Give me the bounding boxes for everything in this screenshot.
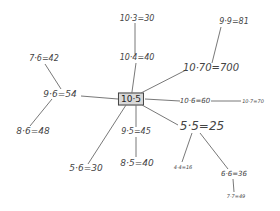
mind-map-node: 10·7=70: [242, 99, 264, 104]
connector-line: [233, 179, 234, 192]
connector-line: [142, 105, 178, 125]
mind-map-node: 5·5=25: [180, 120, 224, 132]
connector-line: [212, 27, 221, 63]
mind-map-node: 9·9=81: [219, 18, 249, 26]
mind-map-node: 7·6=42: [29, 55, 59, 63]
connector-line: [200, 133, 228, 169]
connector-lines: [0, 0, 280, 211]
mind-map-node: 8·5=40: [120, 159, 153, 168]
mind-map-node: 10·3=30: [120, 15, 155, 23]
connector-line: [145, 99, 180, 101]
connector-line: [182, 133, 192, 162]
mind-map-node: 8·6=48: [16, 127, 49, 136]
mind-map-node: 4·4=16: [174, 165, 193, 170]
center-node: 10·5: [118, 93, 144, 106]
connector-line: [81, 96, 118, 99]
mind-map-node: 5·6=30: [69, 164, 102, 173]
mind-map-node: 10·6=60: [180, 98, 210, 105]
connector-line: [30, 99, 52, 126]
mind-map-node: 9·5=45: [121, 128, 151, 136]
mind-map-node: 10·70=700: [183, 63, 239, 73]
mind-map-node: 7·7=49: [227, 194, 246, 199]
mind-map-node: 10·4=40: [120, 54, 155, 62]
mind-map-node: 6·6=36: [221, 171, 247, 178]
connector-line: [45, 64, 61, 89]
mind-map-node: 9·6=54: [43, 90, 76, 99]
connector-line: [141, 70, 186, 93]
